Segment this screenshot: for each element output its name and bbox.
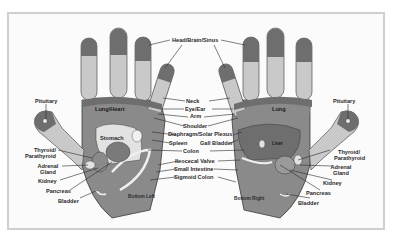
label-left-kidney: Kidney [38, 178, 57, 184]
label-arm: Arm [190, 113, 201, 119]
label-gall-bladder: Gall Bladder [200, 140, 233, 146]
hand-reflexology-diagram [0, 0, 393, 240]
label-right-parathyroid: Parathyroid [334, 155, 365, 161]
label-ileocecal-valve: Ileocecal Valve [175, 158, 215, 164]
label-bottom-right: Bottom Right [234, 196, 264, 202]
label-shoulder: Shoulder [183, 123, 207, 129]
label-right-pituitary: Pituitary [333, 98, 355, 104]
label-bottom-left: Bottom Left [128, 194, 155, 200]
label-left-pituitary: Pituitary [35, 98, 57, 104]
label-right-pancreas: Pancreas [306, 190, 331, 196]
label-right-bladder: Bladder [298, 200, 319, 206]
label-left-parathyroid: Parathyroid [18, 153, 56, 159]
label-colon: Colon [183, 148, 199, 154]
right-thumb [309, 111, 359, 170]
label-spleen: Spleen [169, 140, 187, 146]
label-liver: Liver [272, 141, 283, 147]
label-left-pancreas: Pancreas [46, 188, 71, 194]
left-thumb [34, 111, 84, 170]
label-sigmoid-colon: Sigmoid Colon [174, 174, 213, 180]
label-left-bladder: Bladder [58, 198, 79, 204]
label-diaphragm-solar-plexus: Diaphragm/Solar Plexus [168, 131, 232, 137]
label-left-gland: Gland [34, 169, 62, 175]
label-head-brain-sinus: Head/Brain/Sinus [172, 37, 218, 43]
label-right-kidney: Kidney [323, 180, 342, 186]
label-eye-ear: Eye/Ear [185, 106, 206, 112]
label-neck: Neck [186, 98, 199, 104]
right-hand [217, 28, 359, 218]
label-stomach: Stomach [100, 135, 124, 141]
label-right-gland: Gland [327, 170, 355, 176]
label-lung-heart: Lung/Heart [95, 106, 125, 112]
label-lung: Lung [272, 106, 286, 112]
label-small-intestine: Small Intestine [174, 166, 213, 172]
